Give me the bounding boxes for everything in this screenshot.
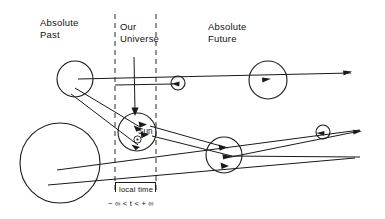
text-labels: Absolute Past Our Universe Absolute Futu… <box>40 17 247 208</box>
arrowhead-icon-future-upper-circle <box>262 78 271 83</box>
worldline-future-lower-exit <box>224 156 360 157</box>
arrowhead-icon-future-lower-a <box>219 144 227 150</box>
absolute-future-label-line2: Future <box>208 33 237 44</box>
incoming-vertical-arrow <box>131 57 138 116</box>
absolute-past-label-line2: Past <box>40 29 60 40</box>
our-universe-label-line1: Our <box>120 21 136 32</box>
arrowhead-icon-lower-right-tip <box>353 130 362 135</box>
spacetime-diagram-figure: Absolute Past Our Universe Absolute Futu… <box>0 0 385 219</box>
absolute-past-label-line1: Absolute <box>40 17 79 28</box>
worldline-upper-main <box>78 73 351 79</box>
worldline-small-upper-inflow <box>115 84 173 85</box>
vertical-arrow-arrowhead-icon <box>131 108 138 117</box>
sun-symbol-icon <box>134 136 141 143</box>
worldline-large-past-lower <box>48 158 355 185</box>
our-universe-label-line2: Universe <box>120 33 159 44</box>
diagram-canvas: Absolute Past Our Universe Absolute Futu… <box>0 0 385 219</box>
local-time-label: local time <box>119 185 153 194</box>
past-large-circle <box>20 123 100 203</box>
worldline-future-lower-to-small <box>226 131 360 158</box>
worldline-sun-to-future-upper <box>150 126 228 148</box>
celestial-bodies <box>20 61 330 203</box>
arrowhead-icon-small-upper-circle <box>172 82 180 87</box>
vertical-arrow-shaft <box>134 57 135 112</box>
absolute-future-label-line1: Absolute <box>208 21 247 32</box>
time-range-label: − ∞ < t < + ∞ <box>108 199 154 208</box>
world-lines <box>48 73 360 185</box>
arrowhead-icon-sun-inflow-b <box>131 145 140 151</box>
sun-symbol-dot <box>136 138 138 140</box>
arrowhead-icon-future-lower-c <box>221 163 230 169</box>
sun-label: Sun <box>138 127 153 136</box>
